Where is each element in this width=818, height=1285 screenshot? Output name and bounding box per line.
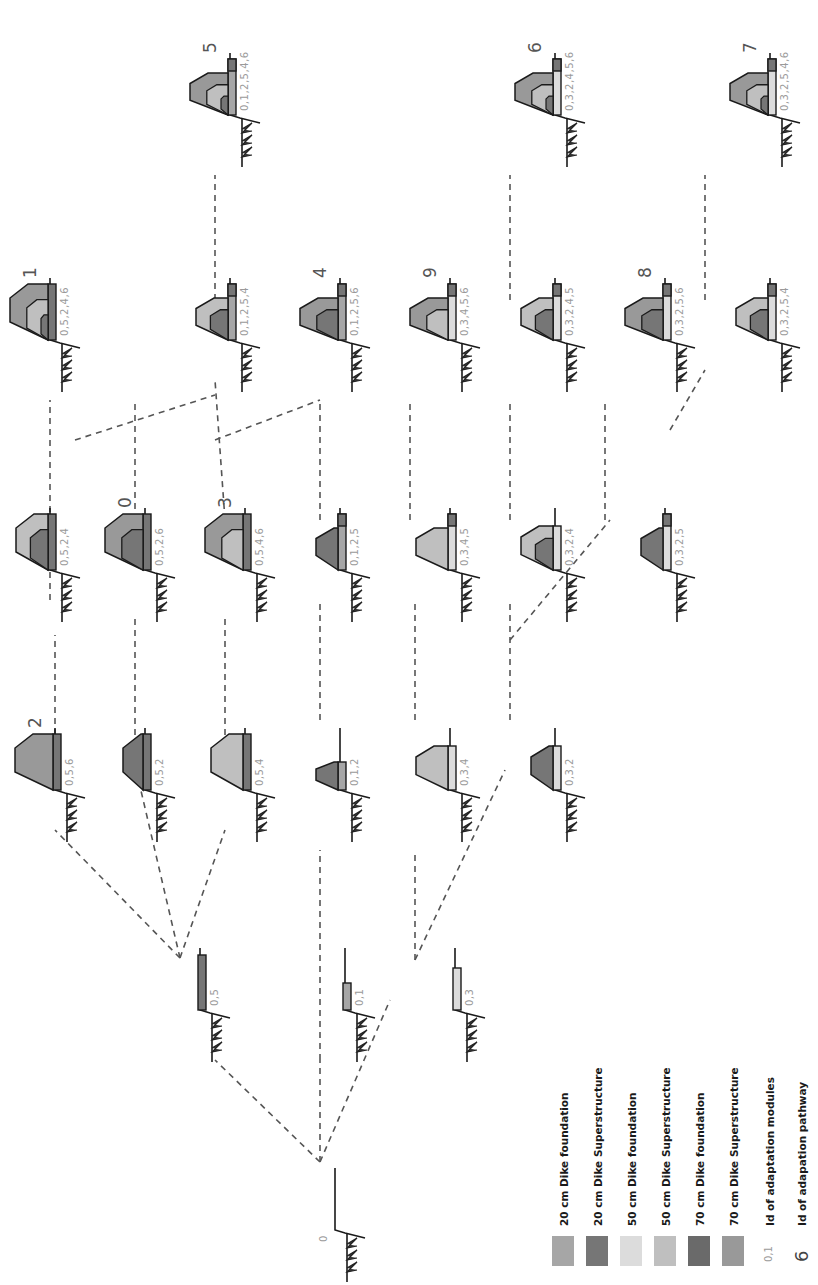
pathway-id: 5 xyxy=(200,42,220,53)
pathway-connector xyxy=(670,370,705,430)
legend-swatch-f20 xyxy=(552,1236,574,1266)
module-ids: 0,3,4,5,6 xyxy=(459,287,470,336)
module-ids: 0,3,2,5 xyxy=(674,528,685,567)
dike-foundation xyxy=(243,514,251,570)
module-ids: 0,5,6 xyxy=(64,758,75,786)
dike-node: 0,3,2,5,4,67 xyxy=(730,42,800,167)
pathway-id: 3 xyxy=(215,497,235,508)
dike-node: 0,3,2 xyxy=(531,728,585,842)
legend-pathway-label: Id of adapation pathway xyxy=(796,1082,808,1226)
waves-icon xyxy=(352,798,362,832)
pathway-id: 9 xyxy=(420,267,440,278)
pathway-id: 7 xyxy=(740,42,760,53)
module-ids: 0,5,2,4,6 xyxy=(59,287,70,336)
waves-icon xyxy=(62,348,72,382)
waves-icon xyxy=(462,798,472,832)
dike-nodes: 00,50,10,30,5,620,5,20,5,40,1,20,3,40,3,… xyxy=(10,42,800,1282)
dike-inner-layer xyxy=(535,310,553,340)
legend-label: 50 cm Dike Superstructure xyxy=(660,1067,672,1226)
dike-foundation-top xyxy=(448,284,456,296)
waves-icon xyxy=(567,798,577,832)
adaptation-pathway-diagram: 00,50,10,30,5,620,5,20,5,40,1,20,3,40,3,… xyxy=(0,0,818,1285)
waves-icon xyxy=(67,798,77,832)
dike-foundation xyxy=(553,526,561,570)
waves-icon xyxy=(677,348,687,382)
module-ids: 0 xyxy=(318,1235,329,1242)
dike-superstructure xyxy=(316,762,338,790)
module-ids: 0,5,4 xyxy=(254,758,265,786)
dike-node: 0,1,2,5 xyxy=(316,508,370,622)
waves-icon xyxy=(462,578,472,612)
legend-label: 70 cm Dike foundation xyxy=(694,1092,706,1226)
dike-foundation-top xyxy=(338,284,346,296)
dike-inner-layer xyxy=(122,530,143,570)
dike-inner-layer xyxy=(750,310,768,340)
dike-foundation xyxy=(448,746,456,790)
dike-foundation xyxy=(53,734,61,790)
dike-node: 0,1 xyxy=(343,948,375,1062)
module-ids: 0,1,2,5,4 xyxy=(239,287,250,336)
module-ids: 0,1,2,5,6 xyxy=(349,287,360,336)
pathway-id: 0 xyxy=(115,497,135,508)
pathway-id: 6 xyxy=(525,42,545,53)
legend-label: 20 cm Dike foundation xyxy=(558,1092,570,1226)
pathway-connector xyxy=(215,1060,320,1162)
legend-module-example: 0,1 xyxy=(763,1246,774,1262)
module-ids: 0,5 xyxy=(209,989,220,1006)
pathway-connector xyxy=(320,1000,390,1162)
waves-icon xyxy=(347,1238,357,1272)
module-ids: 0,5,2,4 xyxy=(59,528,70,567)
dike-node: 0,3,2,5,68 xyxy=(625,267,695,392)
dike-superstructure xyxy=(641,528,663,570)
dike-node: 0,3,2,5 xyxy=(641,508,695,622)
dike-node: 0,5,2,60 xyxy=(105,497,175,622)
dike-node: 0,3,2,5,4 xyxy=(736,278,800,392)
pathway-id: 1 xyxy=(20,267,40,278)
legend-pathway-example: 6 xyxy=(791,1251,812,1262)
dike-foundation xyxy=(243,734,251,790)
dike-node: 0,5,4,63 xyxy=(205,497,275,622)
dike-node: 0,3,2,4 xyxy=(521,508,585,622)
waves-icon xyxy=(157,578,167,612)
module-ids: 0,3,2,5,4,6 xyxy=(779,51,790,111)
module-ids: 0,3,2,5,4 xyxy=(779,287,790,336)
legend: 20 cm Dike foundation20 cm Dike Superstr… xyxy=(552,1067,812,1266)
dike-foundation-top xyxy=(768,284,776,296)
waves-icon xyxy=(467,1018,477,1052)
legend-label: 70 cm Dike Superstructure xyxy=(728,1067,740,1226)
dike-foundation-top xyxy=(768,59,776,71)
waves-icon xyxy=(782,123,792,157)
dike-foundation xyxy=(343,983,351,1010)
module-ids: 0,3,2 xyxy=(564,758,575,786)
ground-profile xyxy=(335,1168,365,1238)
dike-node: 0,5,4 xyxy=(211,728,275,842)
dike-node: 0 xyxy=(318,1168,365,1282)
dike-node: 0,5 xyxy=(198,948,230,1062)
dike-foundation xyxy=(198,955,206,1010)
module-ids: 0,5,4,6 xyxy=(254,528,265,567)
legend-swatch-f70 xyxy=(688,1236,710,1266)
waves-icon xyxy=(567,578,577,612)
dike-inner-layer xyxy=(210,310,228,340)
module-ids: 0,3 xyxy=(464,989,475,1006)
dike-superstructure xyxy=(123,734,143,790)
waves-icon xyxy=(242,348,252,382)
module-ids: 0,1 xyxy=(354,989,365,1006)
dike-foundation-top xyxy=(448,514,456,526)
module-ids: 0,1,2,5 xyxy=(349,528,360,567)
legend-label: 50 cm Dike foundation xyxy=(626,1092,638,1226)
dike-node: 0,5,2,4 xyxy=(16,508,80,622)
legend-swatch-f50 xyxy=(620,1236,642,1266)
dike-foundation xyxy=(143,514,151,570)
pathway-id: 2 xyxy=(25,717,45,728)
dike-foundation xyxy=(48,284,56,340)
dike-node: 0,1,2,5,64 xyxy=(300,267,370,392)
dike-superstructure xyxy=(416,528,448,570)
waves-icon xyxy=(352,578,362,612)
dike-node: 0,1,2,5,4 xyxy=(196,278,260,392)
dike-node: 0,3,4,5,69 xyxy=(410,267,480,392)
dike-superstructure xyxy=(15,734,53,790)
module-ids: 0,5,2 xyxy=(154,758,165,786)
dike-foundation-top xyxy=(663,514,671,526)
waves-icon xyxy=(567,348,577,382)
